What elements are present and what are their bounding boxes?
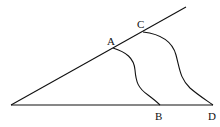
geometry-diagram: A C B D [0,0,220,127]
label-c: C [137,18,144,30]
label-d: D [208,110,216,122]
curve-ab [113,48,160,105]
upper-ray [11,7,186,105]
label-b: B [155,110,162,122]
curve-cd [143,32,213,105]
label-a: A [107,35,115,47]
